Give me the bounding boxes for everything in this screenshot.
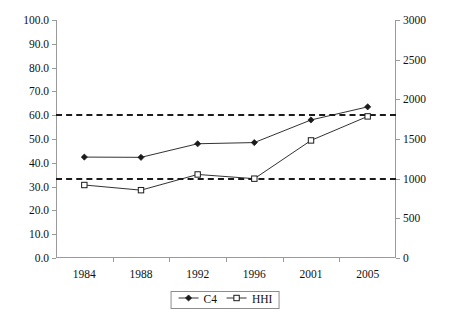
- data-point-marker: [365, 104, 371, 110]
- left-axis-tick-label: 10.0: [29, 228, 49, 240]
- x-axis-tick-label: 2001: [300, 268, 323, 280]
- right-axis-tick: [396, 218, 400, 219]
- x-axis-tick-label: 1984: [73, 268, 96, 280]
- series-hhi: [82, 114, 371, 193]
- data-point-marker: [82, 182, 87, 187]
- filled-diamond-icon: [178, 293, 200, 306]
- data-point-marker: [138, 187, 143, 192]
- x-axis-tick: [283, 258, 284, 262]
- right-axis-tick: [396, 20, 400, 21]
- data-point-marker: [195, 172, 200, 177]
- data-point-marker: [81, 154, 87, 160]
- data-point-marker: [252, 176, 257, 181]
- data-point-marker: [308, 117, 314, 123]
- left-axis-tick-label: 20.0: [29, 204, 49, 216]
- right-axis-tick-label: 0: [403, 252, 409, 264]
- right-axis-tick-label: 2000: [403, 93, 426, 105]
- data-point-marker: [308, 138, 313, 143]
- plot-area: 0.010.020.030.040.050.060.070.080.090.01…: [56, 20, 396, 258]
- data-point-marker: [251, 139, 257, 145]
- x-axis-tick: [169, 258, 170, 262]
- right-axis-tick: [396, 99, 400, 100]
- right-axis-tick-label: 1000: [403, 173, 426, 185]
- legend-item-hhi[interactable]: HHI: [226, 293, 272, 306]
- left-axis-tick-label: 90.0: [29, 38, 49, 50]
- series-line: [84, 107, 367, 157]
- data-point-marker: [138, 154, 144, 160]
- x-axis-tick-label: 1992: [186, 268, 209, 280]
- right-axis-tick: [396, 60, 400, 61]
- left-axis-tick-label: 0.0: [35, 252, 49, 264]
- data-point-marker: [195, 141, 201, 147]
- left-axis-tick-label: 80.0: [29, 62, 49, 74]
- concentration-line-chart: 0.010.020.030.040.050.060.070.080.090.01…: [0, 0, 450, 320]
- open-square-icon: [226, 293, 248, 306]
- legend-item-c4[interactable]: C4: [178, 293, 217, 306]
- left-axis-tick-label: 60.0: [29, 109, 49, 121]
- right-axis-tick: [396, 139, 400, 140]
- left-axis-tick-label: 30.0: [29, 181, 49, 193]
- right-axis-tick: [396, 179, 400, 180]
- x-axis-tick-label: 1988: [130, 268, 153, 280]
- series-c4: [81, 104, 371, 161]
- left-axis-tick: [52, 258, 56, 259]
- x-axis-tick-label: 2005: [356, 268, 379, 280]
- left-axis-tick-label: 50.0: [29, 133, 49, 145]
- right-axis-tick-label: 1500: [403, 133, 426, 145]
- legend-item-label: C4: [204, 294, 217, 306]
- series-layer: [56, 20, 396, 258]
- left-axis-tick-label: 70.0: [29, 85, 49, 97]
- right-axis-tick-label: 500: [403, 212, 420, 224]
- left-axis-tick-label: 100.0: [23, 14, 49, 26]
- left-axis-tick-label: 40.0: [29, 157, 49, 169]
- chart-legend: C4HHI: [171, 291, 280, 309]
- x-axis-tick-label: 1996: [243, 268, 266, 280]
- x-axis-tick: [226, 258, 227, 262]
- legend-item-label: HHI: [252, 294, 272, 306]
- data-point-marker: [365, 114, 370, 119]
- right-axis-tick-label: 2500: [403, 54, 426, 66]
- right-axis-tick-label: 3000: [403, 14, 426, 26]
- series-line: [84, 116, 367, 190]
- right-axis-tick: [396, 258, 400, 259]
- x-axis-tick: [339, 258, 340, 262]
- x-axis-tick: [113, 258, 114, 262]
